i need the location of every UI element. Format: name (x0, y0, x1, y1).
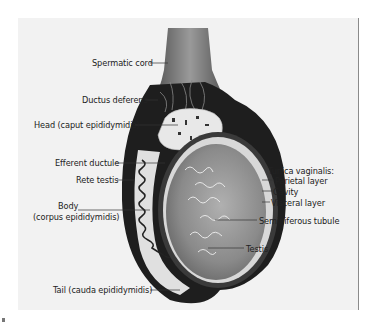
label-cavity: Cavity (273, 187, 298, 197)
corner-mark (2, 318, 5, 322)
label-head: Head (caput epididymidis) (34, 120, 140, 130)
label-spermatic-cord: Spermatic cord (92, 58, 153, 68)
label-body-latin: (corpus epididymidis) (33, 212, 119, 222)
label-body: Body (58, 201, 78, 211)
label-rete-testis: Rete testis (76, 175, 118, 185)
label-ductus-deferens: Ductus deferens (82, 95, 148, 105)
label-tail: Tail (cauda epididymidis) (53, 285, 152, 295)
label-parietal-layer: Parietal layer (275, 176, 328, 186)
label-tunica-vaginalis: Tunica vaginalis: (268, 166, 334, 176)
label-testis: Testis (246, 244, 268, 254)
label-seminiferous-tubule: Seminiferous tubule (259, 216, 339, 226)
label-efferent-ductule: Efferent ductule (55, 158, 119, 168)
testis-body (166, 144, 266, 280)
label-visceral-layer: Visceral layer (271, 198, 325, 208)
